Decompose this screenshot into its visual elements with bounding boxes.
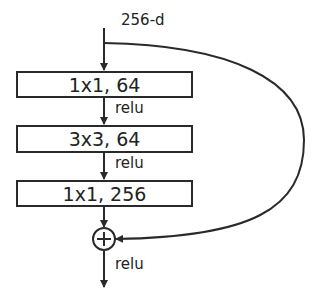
output-relu-label: relu [115, 255, 144, 273]
input-dimension-label: 256-d [121, 11, 165, 29]
layer-box-1: 1x1, 64 [16, 71, 193, 98]
relu-label-2: relu [115, 154, 144, 172]
layer-box-3: 1x1, 256 [16, 180, 193, 207]
relu-label-1: relu [115, 99, 144, 117]
layer-box-2: 3x3, 64 [16, 125, 193, 153]
